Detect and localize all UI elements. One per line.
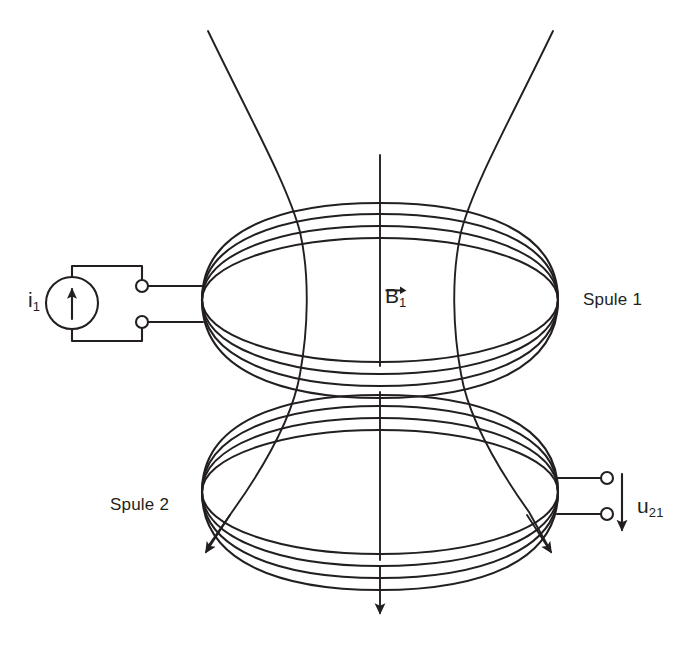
output-terminal-circuit (557, 472, 622, 530)
terminal-coil1-bottom[interactable] (136, 316, 148, 328)
voltage-label: u21 (637, 495, 664, 516)
terminal-coil1-top[interactable] (136, 280, 148, 292)
field-line-group (207, 31, 553, 613)
field-line-right (454, 31, 553, 548)
voltage-symbol: u (637, 494, 649, 517)
diagram-canvas (0, 0, 694, 656)
source-wire-bottom (72, 328, 142, 341)
vector-arrow-icon (385, 285, 407, 294)
coupled-coils-diagram: Spule 1 Spule 2 i1 B1 u21 (0, 0, 694, 656)
coil2-label: Spule 2 (110, 496, 169, 513)
current-source-circuit (46, 266, 203, 341)
terminal-coil2-top[interactable] (601, 472, 613, 484)
flux-density-label: B1 (385, 285, 407, 306)
current-subscript: 1 (33, 299, 41, 314)
voltage-subscript: 21 (649, 505, 664, 520)
flux-vector-wrapper: B (385, 285, 399, 306)
field-line-arrowheads (206, 515, 551, 552)
field-line-left (207, 31, 307, 548)
current-symbol: i (28, 288, 33, 311)
source-wire-top (72, 266, 142, 280)
current-label: i1 (28, 289, 40, 310)
flux-subscript: 1 (399, 295, 407, 310)
terminal-coil2-bottom[interactable] (601, 508, 613, 520)
coil1-label: Spule 1 (583, 291, 642, 308)
